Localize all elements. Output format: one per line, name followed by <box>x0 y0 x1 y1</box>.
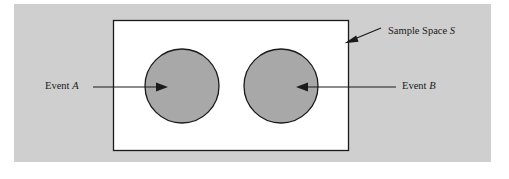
sample-space-pointer-arrow <box>345 28 382 43</box>
event-b-label: Event B <box>402 81 436 92</box>
event-b-label-symbol: B <box>429 80 435 91</box>
figure-page: Sample Space S Event A Event B <box>0 0 509 179</box>
event-a-label-text: Event <box>45 80 72 91</box>
event-b-label-text: Event <box>402 80 429 91</box>
sample-space-label-text: Sample Space <box>388 25 450 36</box>
event-a-label-symbol: A <box>72 80 78 91</box>
event-a-label: Event A <box>45 81 79 92</box>
sample-space-label-symbol: S <box>450 25 455 36</box>
sample-space-label: Sample Space S <box>388 26 455 37</box>
